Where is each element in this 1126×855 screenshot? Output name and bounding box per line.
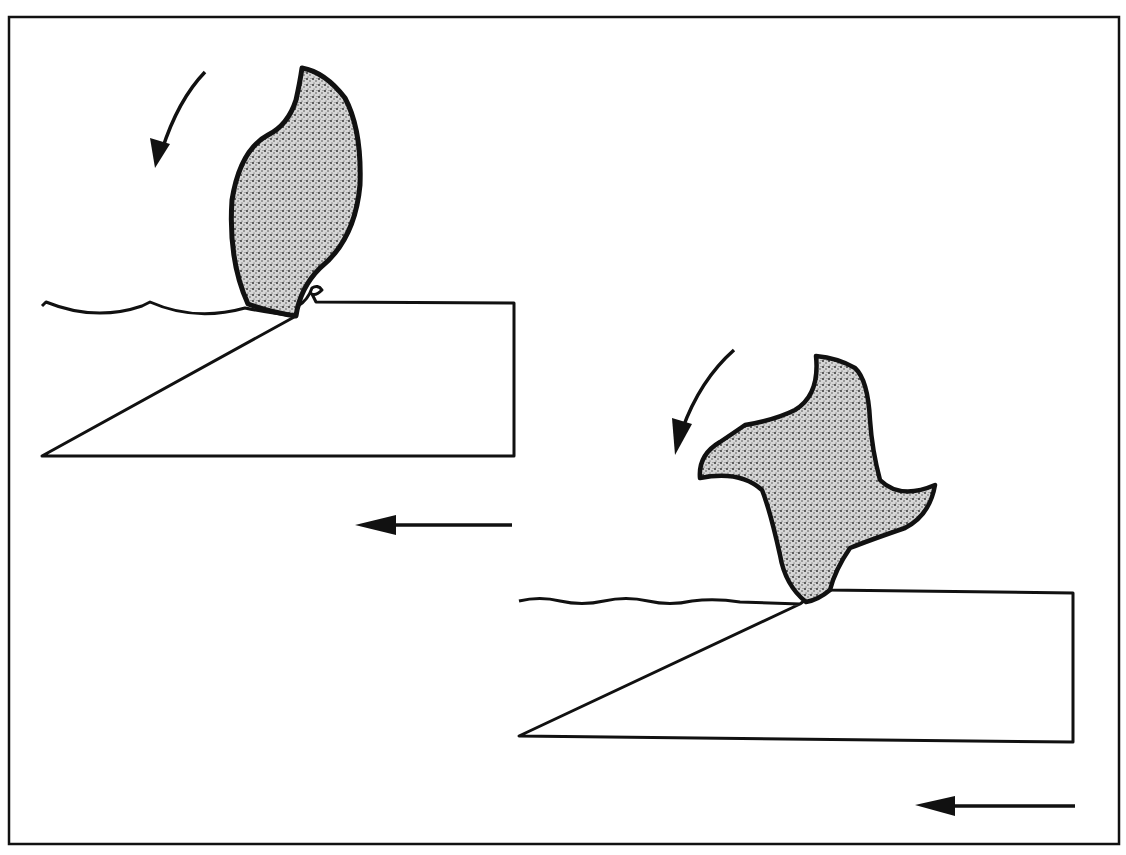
feed-arrow-left-icon — [915, 796, 1075, 816]
cutter-single-tooth — [231, 68, 360, 316]
workpiece-2 — [519, 577, 1073, 742]
panel-single-tooth — [42, 68, 514, 535]
panel-four-tooth — [519, 350, 1075, 816]
cutter-four-tooth — [700, 356, 935, 602]
rotation-arrow-icon — [150, 72, 205, 168]
milling-diagram — [0, 0, 1126, 855]
feed-arrow-left-icon — [355, 515, 512, 535]
